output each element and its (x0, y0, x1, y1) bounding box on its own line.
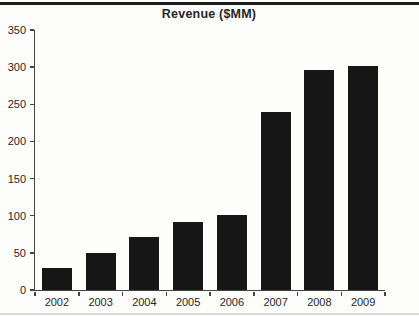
y-axis-tick (30, 141, 34, 143)
x-axis-tick (122, 292, 124, 296)
x-axis-tick (166, 292, 168, 296)
bar-2009 (348, 66, 378, 290)
x-axis-label-2009: 2009 (341, 296, 385, 308)
scanned-figure-page: Revenue ($MM) 05010015020025030035020022… (0, 0, 419, 316)
bottom-horizontal-rule (0, 313, 419, 315)
y-axis-tick (30, 104, 34, 106)
x-axis-tick (78, 292, 80, 296)
y-axis-label: 150 (1, 173, 26, 185)
top-horizontal-rule (0, 2, 419, 5)
y-axis-label: 100 (1, 210, 26, 222)
bar-2003 (86, 253, 116, 290)
y-axis-tick (30, 289, 34, 291)
bar-2005 (173, 222, 203, 290)
x-axis-label-2003: 2003 (79, 296, 123, 308)
x-axis-label-2008: 2008 (298, 296, 342, 308)
y-axis-label: 0 (1, 284, 26, 296)
x-axis-label-2007: 2007 (254, 296, 298, 308)
y-axis-label: 300 (1, 61, 26, 73)
x-axis-tick (253, 292, 255, 296)
y-axis-tick (30, 29, 34, 31)
y-axis-label: 200 (1, 135, 26, 147)
x-axis-tick (341, 292, 343, 296)
y-axis-tick (30, 66, 34, 68)
x-axis-label-2005: 2005 (166, 296, 210, 308)
x-axis-tick (297, 292, 299, 296)
x-axis-label-2002: 2002 (35, 296, 79, 308)
x-axis-label-2006: 2006 (210, 296, 254, 308)
bar-2008 (304, 70, 334, 290)
y-axis-label: 50 (1, 247, 26, 259)
y-axis-tick (30, 252, 34, 254)
bar-2006 (217, 215, 247, 290)
x-axis-tick (34, 292, 36, 296)
bar-2002 (42, 268, 72, 290)
x-axis-label-2004: 2004 (123, 296, 167, 308)
bar-2004 (129, 237, 159, 290)
x-axis-tick (209, 292, 211, 296)
bar-2007 (261, 112, 291, 290)
x-axis-tick (384, 292, 386, 296)
y-axis-tick (30, 178, 34, 180)
chart-title: Revenue ($MM) (34, 7, 384, 21)
y-axis-label: 250 (1, 98, 26, 110)
y-axis-tick (30, 215, 34, 217)
plot-area: 0501001502002503003502002200320042005200… (34, 30, 385, 291)
y-axis-label: 350 (1, 24, 26, 36)
